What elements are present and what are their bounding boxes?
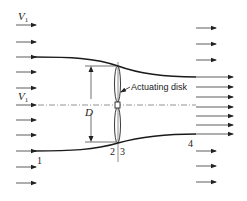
disk-label-leader <box>121 87 130 92</box>
diameter-dimension <box>85 66 116 142</box>
actuating-disk <box>115 66 121 143</box>
incoming-flow-arrows <box>16 25 36 183</box>
disk-hub <box>115 102 120 108</box>
station-2-label: 2 <box>110 146 115 157</box>
station-3-label: 3 <box>120 146 125 157</box>
outgoing-slipstream-arrows <box>196 77 233 134</box>
streamtube-diagram: V1 V1 D Actuating disk 1 2 3 4 <box>0 0 247 201</box>
diameter-label: D <box>84 106 93 118</box>
outgoing-outer-arrows <box>196 28 216 182</box>
diagram-canvas: V1 V1 D Actuating disk 1 2 3 4 <box>0 0 247 201</box>
actuating-disk-label: Actuating disk <box>131 82 188 92</box>
v1-mid-label: V1 <box>18 90 29 104</box>
station-1-label: 1 <box>37 155 42 166</box>
v1-top-label: V1 <box>18 10 29 24</box>
station-4-label: 4 <box>188 138 193 149</box>
